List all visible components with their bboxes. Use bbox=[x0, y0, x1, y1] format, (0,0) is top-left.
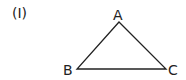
triangle-abc bbox=[0, 0, 186, 80]
vertex-b-label: B bbox=[63, 63, 73, 77]
vertex-a-label: A bbox=[113, 8, 123, 22]
triangle-shape bbox=[77, 22, 166, 69]
vertex-c-label: C bbox=[168, 63, 178, 77]
